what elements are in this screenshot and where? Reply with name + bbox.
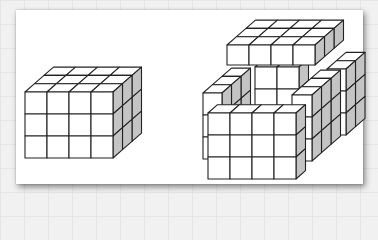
left-solid-block — [25, 67, 142, 158]
right-top-slab — [227, 20, 344, 65]
cube-assembly-diagram — [0, 0, 378, 196]
right-front-slab — [208, 105, 306, 179]
